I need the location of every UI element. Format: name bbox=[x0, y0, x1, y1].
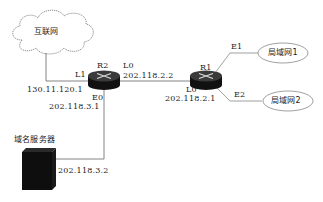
lan2-label: 局域网2 bbox=[271, 96, 301, 105]
r1-e1-interface: E1 bbox=[231, 42, 242, 51]
r2-l1-ip: 130.11.120.1 bbox=[27, 85, 83, 94]
dns-server-label: 域名服务器 bbox=[14, 135, 55, 144]
r2-e0-interface: E0 bbox=[92, 93, 103, 102]
r2-l1-interface: L1 bbox=[75, 70, 86, 79]
r2-label: R2 bbox=[97, 61, 109, 70]
router-r2-icon bbox=[88, 71, 120, 91]
r1-l0-ip: 202.118.2.1 bbox=[165, 94, 216, 103]
r2-l0-ip: 202.118.2.2 bbox=[123, 71, 174, 80]
dns-server-ip: 202.118.3.2 bbox=[58, 166, 109, 175]
r2-l0-interface: L0 bbox=[123, 61, 134, 70]
r1-label: R1 bbox=[200, 63, 212, 72]
server-icon bbox=[22, 148, 56, 190]
r2-e0-ip: 202.118.3.1 bbox=[49, 102, 100, 111]
internet-label: 互联网 bbox=[34, 27, 59, 36]
lan1-label: 局域网1 bbox=[268, 48, 298, 57]
r1-l0-interface: L0 bbox=[186, 85, 197, 94]
network-topology-diagram: 互联网 R2 L1 130.11.120.1 L0 202.118.2.2 E0… bbox=[0, 0, 323, 202]
r1-e2-interface: E2 bbox=[234, 90, 245, 99]
